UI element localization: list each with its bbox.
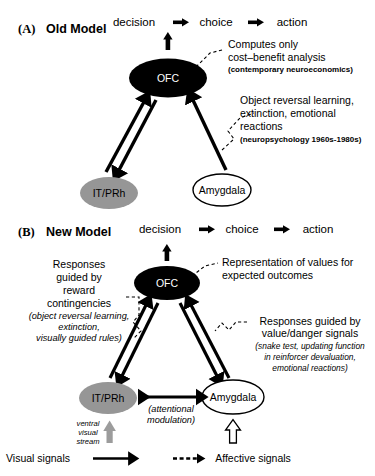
panel-b-node-ofc-label: OFC	[156, 277, 179, 289]
panel-b-anno-topright-line1: Representation of values for	[222, 256, 354, 268]
panel-b-flow-choice: choice	[225, 223, 258, 235]
panel-b-anno-topright-line2: expected outcomes	[222, 269, 313, 281]
panel-b-letter: (B)	[18, 225, 35, 239]
panel-b-anno-left-line1: Responses	[53, 258, 106, 270]
panel-a-inputs-anno-line3: reactions	[240, 120, 283, 132]
panel-a-ofc-anno-line2: cost–benefit analysis	[228, 51, 325, 63]
panel-b-title: New Model	[46, 225, 111, 239]
panel-b-anno-middle-line2: modulation)	[147, 415, 195, 425]
panel-b-flow-decision: decision	[139, 223, 181, 235]
panel-b-anno-left-line3: reward	[63, 284, 95, 296]
panel-a-ofc-anno-line1: Computes only	[228, 38, 299, 50]
panel-a-flow-action: action	[277, 16, 308, 28]
panel-b-flow-action: action	[303, 223, 334, 235]
panel-b-anno-left-italic3: visually guided rules)	[36, 333, 122, 343]
panel-b-anno-left-italic1: (object reversal learning,	[29, 311, 130, 321]
panel-b-node-amygdala-label: Amygdala	[210, 391, 257, 403]
panel-a-title: Old Model	[46, 22, 106, 36]
panel-b-anno-ventral-line2: visual	[78, 428, 98, 437]
panel-b-anno-left-line2: guided by	[56, 271, 102, 283]
panel-b-anno-right-italic1: (snake test, updating function	[255, 341, 365, 351]
figure-container: (A) Old Model decision choice action OFC…	[0, 0, 375, 476]
panel-a-letter: (A)	[18, 22, 35, 36]
panel-a-node-itprh-label: IT/PRh	[93, 187, 126, 199]
panel-b-anno-right-line1: Responses guided by	[260, 315, 362, 327]
panel-b-anno-right-line2: value/danger signals	[262, 327, 358, 339]
panel-b-node-itprh-label: IT/PRh	[92, 392, 125, 404]
panel-a-ofc-anno-line3: (contemporary neuroeconomics)	[228, 65, 353, 74]
panel-b-anno-left-line4: contingencies	[47, 297, 111, 309]
panel-a-node-amygdala-label: Amygdala	[199, 184, 246, 196]
panel-b-anno-left-italic2: extinction,	[58, 322, 99, 332]
legend-affective-signals-label: Affective signals	[215, 452, 291, 464]
panel-b-anno-ventral-line3: stream	[76, 437, 99, 446]
panel-b-anno-right-italic3: emotional reactions)	[272, 363, 348, 373]
panel-a-inputs-anno-line2: extinction, emotional	[240, 107, 336, 119]
panel-b-anno-right-italic2: in reinforcer devaluation,	[264, 352, 356, 362]
panel-a-node-ofc-label: OFC	[157, 72, 180, 84]
panel-a-inputs-anno-line4: (neuropsychology 1960s-1980s)	[240, 135, 362, 144]
legend-visual-signals-label: Visual signals	[6, 452, 70, 464]
panel-b-anno-ventral-line1: ventral	[77, 419, 100, 428]
panel-a-flow-choice: choice	[199, 16, 232, 28]
panel-b-anno-middle-line1: (attentional	[148, 404, 194, 414]
panel-a-inputs-anno-line1: Object reversal learning,	[240, 94, 354, 106]
model-diagram: (A) Old Model decision choice action OFC…	[0, 0, 375, 476]
panel-a-flow-decision: decision	[113, 16, 155, 28]
